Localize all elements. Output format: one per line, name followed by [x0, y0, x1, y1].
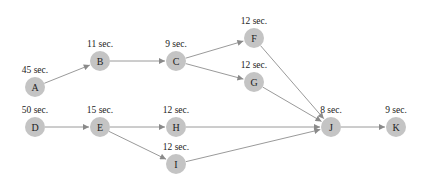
- node-label: E: [97, 122, 103, 133]
- duration-label: 12 sec.: [241, 16, 267, 26]
- node-label: D: [31, 122, 38, 133]
- edge-e-to-i: [109, 131, 166, 159]
- nodes-layer: A45 sec.B11 sec.C9 sec.F12 sec.G12 sec.D…: [22, 16, 407, 174]
- node-label: F: [251, 33, 257, 44]
- node-label: A: [31, 82, 39, 93]
- node-k: K9 sec.: [385, 105, 407, 137]
- duration-label: 12 sec.: [163, 142, 189, 152]
- node-j: J8 sec.: [320, 105, 342, 137]
- duration-label: 9 sec.: [385, 105, 407, 115]
- node-label: G: [250, 77, 257, 88]
- node-f: F12 sec.: [241, 16, 267, 48]
- node-label: B: [97, 56, 104, 67]
- duration-label: 50 sec.: [22, 105, 48, 115]
- duration-label: 12 sec.: [163, 105, 189, 115]
- node-e: E15 sec.: [87, 105, 113, 137]
- duration-label: 8 sec.: [320, 105, 342, 115]
- edge-c-to-g: [186, 64, 244, 80]
- edge-c-to-f: [186, 41, 244, 58]
- node-i: I12 sec.: [163, 142, 189, 174]
- duration-label: 15 sec.: [87, 105, 113, 115]
- edge-a-to-b: [44, 65, 90, 83]
- node-h: H12 sec.: [163, 105, 189, 137]
- edge-f-to-j: [261, 46, 324, 119]
- duration-label: 45 sec.: [22, 65, 48, 75]
- duration-label: 12 sec.: [241, 60, 267, 70]
- edge-g-to-j: [263, 87, 322, 121]
- node-label: H: [172, 122, 179, 133]
- activity-network-diagram: A45 sec.B11 sec.C9 sec.F12 sec.G12 sec.D…: [0, 0, 426, 179]
- node-d: D50 sec.: [22, 105, 48, 137]
- node-label: I: [174, 159, 177, 170]
- node-label: C: [173, 56, 180, 67]
- duration-label: 9 sec.: [165, 39, 187, 49]
- node-a: A45 sec.: [22, 65, 48, 97]
- duration-label: 11 sec.: [87, 39, 113, 49]
- node-c: C9 sec.: [165, 39, 187, 71]
- edge-i-to-j: [186, 130, 321, 162]
- node-label: K: [392, 122, 400, 133]
- node-label: J: [329, 122, 333, 133]
- node-b: B11 sec.: [87, 39, 113, 71]
